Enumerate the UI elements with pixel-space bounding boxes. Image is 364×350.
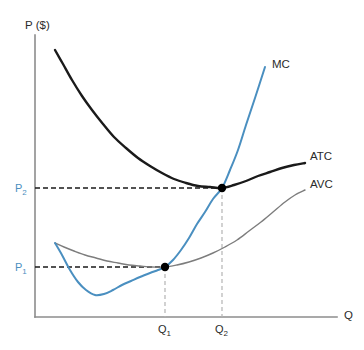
MC-ATC-minimum — [218, 184, 226, 192]
atc-curve-label: ATC — [310, 150, 332, 162]
MC-AVC-minimum — [161, 263, 169, 271]
mc-curve-label: MC — [272, 58, 290, 70]
q1-tick-label: Q1 — [158, 323, 172, 338]
avc-curve — [55, 190, 305, 267]
intersection-points — [161, 184, 226, 271]
p2-tick-label: P2 — [15, 182, 27, 197]
y-axis-title: P ($) — [25, 19, 50, 31]
p1-tick-label: P1 — [15, 261, 27, 276]
q2-tick-label: Q2 — [215, 323, 229, 338]
chart-canvas: P ($) Q MC ATC AVC P2 P1 Q1 Q2 — [0, 0, 364, 350]
atc-curve — [55, 50, 305, 188]
avc-curve-label: AVC — [310, 178, 333, 190]
x-axis-title: Q — [344, 309, 353, 321]
cost-curves-chart: P ($) Q MC ATC AVC P2 P1 Q1 Q2 — [0, 0, 364, 350]
